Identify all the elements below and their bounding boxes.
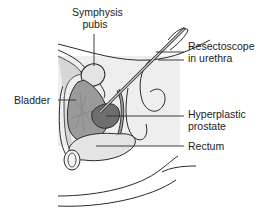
label-rectum-line1: Rectum [188, 140, 224, 152]
label-hyperplastic-prostate-line2: prostate [188, 120, 246, 132]
perineum-contour [162, 166, 196, 172]
label-resectoscope-line2: in urethra [188, 52, 255, 64]
label-symphysis-pubis: Symphysis pubis [72, 6, 118, 30]
glans-contour [168, 28, 188, 50]
label-rectum: Rectum [188, 140, 224, 152]
label-hyperplastic-prostate: Hyperplastic prostate [188, 108, 246, 132]
label-symphysis-pubis-line1: Symphysis [72, 6, 118, 18]
label-resectoscope-line1: Resectoscope [188, 40, 255, 52]
anatomy-illustration [0, 0, 264, 212]
label-hyperplastic-prostate-line1: Hyperplastic [188, 108, 246, 120]
label-symphysis-pubis-line2: pubis [72, 18, 118, 30]
label-resectoscope: Resectoscope in urethra [188, 40, 255, 64]
diagram-canvas: Symphysis pubis Resectoscope in urethra … [0, 0, 264, 212]
lower-outline [58, 180, 176, 206]
label-bladder: Bladder [14, 94, 50, 106]
label-bladder-line1: Bladder [14, 94, 50, 106]
